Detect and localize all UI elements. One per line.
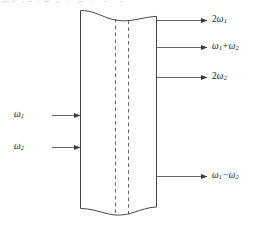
omega-symbol: ω (217, 14, 224, 24)
omega-symbol: ω (217, 71, 224, 81)
omega-symbol: ω (14, 141, 21, 151)
slab-outline (81, 11, 157, 216)
omega-subscript: 2 (224, 74, 227, 81)
label-input-omega-1: ω1 (14, 110, 24, 120)
omega-symbol-2: ω (229, 41, 236, 51)
omega-subscript-2: 2 (236, 44, 239, 51)
label-output-omega-1-minus-omega-2: ω1−ω2 (212, 171, 239, 181)
diagram-svg (0, 0, 256, 227)
figure-canvas: ω1 ω2 2ω1 ω1+ω2 2ω2 ω1−ω2 (0, 0, 256, 227)
operator: − (222, 170, 229, 180)
label-output-omega-1-plus-omega-2: ω1+ω2 (212, 42, 239, 52)
label-input-omega-2: ω2 (14, 142, 24, 152)
operator: + (222, 41, 229, 51)
omega-subscript: 1 (224, 17, 227, 24)
nonlinear-medium-slab (81, 11, 157, 216)
label-output-2-omega-1: 2ω1 (212, 15, 227, 25)
omega-subscript: 2 (21, 144, 24, 151)
output-beam-arrows (157, 21, 207, 177)
omega-subscript: 1 (21, 112, 24, 119)
label-output-2-omega-2: 2ω2 (212, 72, 227, 82)
omega-symbol-2: ω (229, 170, 236, 180)
omega-symbol: ω (212, 170, 219, 180)
omega-symbol: ω (14, 109, 21, 119)
input-beam-arrows (52, 116, 80, 148)
omega-subscript-2: 2 (236, 173, 239, 180)
omega-symbol: ω (212, 41, 219, 51)
